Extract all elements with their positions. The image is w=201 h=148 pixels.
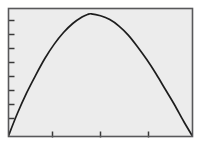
plot-canvas: [0, 0, 201, 148]
plot-figure: [0, 0, 201, 148]
plot-area-background: [9, 9, 193, 137]
